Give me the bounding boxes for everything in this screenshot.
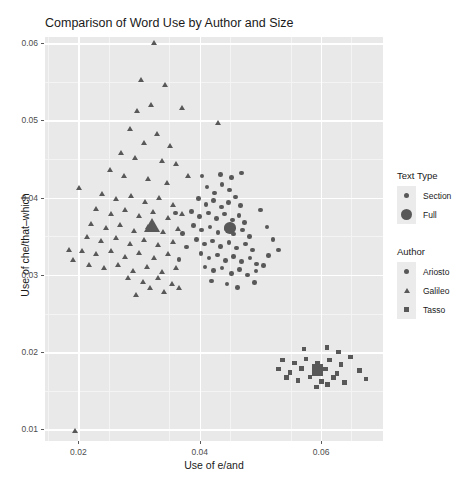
data-point-ariosto: [254, 262, 259, 267]
data-point-ariosto: [242, 220, 247, 225]
legend-author-title: Author: [397, 246, 467, 257]
data-point-tasso: [339, 362, 344, 367]
data-point-galileo: [167, 143, 173, 148]
data-point-tasso: [331, 375, 336, 380]
data-point-tasso: [348, 355, 353, 360]
data-point-ariosto: [214, 216, 219, 221]
circle-marker-icon: [401, 209, 412, 220]
data-point-galileo: [132, 155, 138, 160]
data-point-tasso: [276, 367, 281, 372]
data-point-ariosto: [199, 228, 204, 233]
centroid-point-tasso: [312, 364, 324, 376]
data-point-ariosto: [276, 248, 281, 253]
data-point-tasso: [342, 380, 347, 385]
data-point-tasso: [325, 382, 330, 387]
data-point-galileo: [215, 120, 221, 125]
data-point-tasso: [323, 367, 328, 372]
legend-item[interactable]: Galileo: [397, 281, 467, 300]
data-point-tasso: [357, 368, 362, 373]
legend-item[interactable]: Ariosto: [397, 262, 467, 281]
data-point-ariosto: [258, 208, 263, 213]
data-point-galileo: [72, 428, 78, 433]
data-point-ariosto: [237, 267, 242, 272]
legend-item[interactable]: Section: [397, 186, 467, 205]
data-point-tasso: [292, 361, 297, 366]
data-point-galileo: [185, 173, 191, 178]
data-point-galileo: [131, 228, 137, 233]
legend-item-label: Section: [423, 191, 451, 201]
data-point-ariosto: [216, 230, 221, 235]
data-point-ariosto: [203, 265, 208, 270]
data-point-ariosto: [254, 269, 259, 274]
data-point-ariosto: [271, 237, 276, 242]
data-point-galileo: [136, 213, 142, 218]
data-point-galileo: [122, 207, 128, 212]
data-point-galileo: [154, 131, 160, 136]
grid-line-major-y: [45, 352, 383, 353]
data-point-galileo: [127, 126, 133, 131]
y-tick-label: 0.01: [2, 424, 38, 434]
data-point-ariosto: [206, 211, 211, 216]
y-tick-mark: [41, 198, 44, 199]
legend-item-label: Tasso: [423, 305, 445, 315]
data-point-galileo: [151, 40, 157, 45]
data-point-galileo: [141, 140, 147, 145]
legend-item-label: Ariosto: [423, 267, 449, 277]
y-tick-mark: [41, 43, 44, 44]
data-point-ariosto: [196, 196, 201, 201]
chart-root: Comparison of Word Use by Author and Siz…: [0, 0, 467, 479]
y-tick-mark: [41, 352, 44, 353]
data-point-tasso: [319, 379, 324, 384]
data-point-ariosto: [191, 223, 196, 228]
data-point-galileo: [138, 77, 144, 82]
legend-item[interactable]: Tasso: [397, 300, 467, 319]
data-point-galileo: [84, 234, 90, 239]
data-point-tasso: [302, 347, 307, 352]
data-point-ariosto: [180, 231, 185, 236]
grid-line-major-x: [78, 37, 79, 441]
square-marker-icon: [404, 307, 409, 312]
data-point-galileo: [150, 209, 156, 214]
data-point-galileo: [133, 292, 139, 297]
data-point-ariosto: [222, 212, 227, 217]
data-point-galileo: [86, 262, 92, 267]
data-point-ariosto: [223, 258, 228, 263]
x-tick-label: 0.06: [313, 447, 330, 457]
legend-item[interactable]: Full: [397, 205, 467, 224]
data-point-galileo: [170, 239, 176, 244]
data-point-ariosto: [202, 242, 207, 247]
x-axis-label: Use of e/and: [45, 459, 383, 471]
data-point-ariosto: [233, 195, 238, 200]
data-point-ariosto: [239, 171, 244, 176]
legend-spacer: [397, 224, 467, 246]
data-point-tasso: [325, 345, 330, 350]
data-point-galileo: [108, 248, 114, 253]
data-point-galileo: [170, 202, 176, 207]
data-point-ariosto: [205, 185, 210, 190]
data-point-tasso: [314, 385, 319, 390]
data-point-ariosto: [225, 282, 230, 287]
data-point-galileo: [162, 82, 168, 87]
data-point-ariosto: [210, 239, 215, 244]
grid-line-minor-y: [45, 391, 383, 392]
legend-item-label: Full: [423, 210, 437, 220]
y-tick-mark: [41, 275, 44, 276]
data-point-ariosto: [220, 266, 225, 271]
data-point-galileo: [108, 211, 114, 216]
data-point-ariosto: [239, 259, 244, 264]
x-tick-mark: [321, 441, 322, 444]
data-point-galileo: [155, 242, 161, 247]
data-point-ariosto: [219, 205, 224, 210]
data-point-galileo: [165, 251, 171, 256]
y-tick-mark: [41, 429, 44, 430]
data-point-galileo: [175, 226, 181, 231]
grid-line-minor-x: [48, 37, 49, 441]
data-point-ariosto: [266, 253, 271, 258]
data-point-ariosto: [226, 200, 231, 205]
data-point-ariosto: [261, 263, 266, 268]
data-point-galileo: [169, 281, 175, 286]
data-point-galileo: [115, 262, 121, 267]
data-point-galileo: [176, 285, 182, 290]
data-point-galileo: [159, 158, 165, 163]
data-point-tasso: [304, 357, 309, 362]
